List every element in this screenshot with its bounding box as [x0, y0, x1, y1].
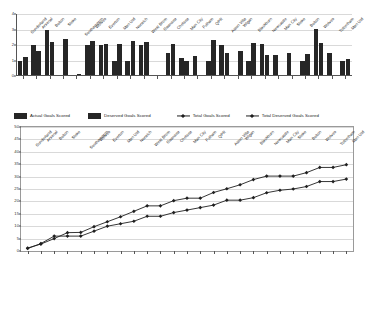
x-axis-tick-mark: [67, 251, 68, 254]
line-data-point: [92, 229, 96, 233]
line-data-point: [212, 191, 216, 195]
x-axis-tick-mark: [103, 76, 104, 79]
x-axis-tick-mark: [63, 76, 64, 79]
legend-item-label: Actual Goals Scored: [30, 114, 70, 118]
bar-deserved: [90, 41, 95, 76]
legend-line-marker-icon: [177, 113, 190, 119]
bar-deserved: [265, 55, 270, 76]
x-axis-tick-mark: [332, 76, 333, 79]
bar-actual: [193, 56, 198, 76]
line-data-point: [159, 214, 163, 218]
legend-bar-swatch-icon: [14, 113, 27, 119]
line-data-point: [291, 174, 295, 178]
x-axis-tick-mark: [187, 251, 188, 254]
x-axis-tick-mark: [147, 251, 148, 254]
bar-deserved: [238, 51, 243, 76]
line-data-point: [318, 180, 322, 184]
bar-plot-area: 01234 SunderlandArsenalBoltonStokeSoutha…: [16, 14, 352, 76]
line-chart: 05101520253035404550 SunderlandArsenalBo…: [0, 124, 360, 309]
x-axis-tick-mark: [214, 251, 215, 254]
bar-deserved: [171, 44, 176, 76]
line-data-point: [132, 209, 136, 213]
bar-actual: [99, 45, 104, 76]
x-axis-tick-mark: [171, 76, 172, 79]
bar-actual: [112, 61, 117, 77]
x-axis-tick-mark: [307, 251, 308, 254]
legend-item: Total Deserved Goals Scored: [246, 113, 319, 119]
x-axis-tick-mark: [320, 251, 321, 254]
x-axis-tick-mark: [197, 76, 198, 79]
x-axis-tick-mark: [211, 76, 212, 79]
line-data-point: [145, 204, 149, 208]
x-axis-tick-mark: [54, 251, 55, 254]
x-axis-tick-mark: [174, 251, 175, 254]
x-axis-tick-mark: [238, 76, 239, 79]
x-axis-tick-mark: [345, 76, 346, 79]
line-data-point: [79, 231, 83, 235]
bar-deserved: [63, 39, 68, 76]
line-data-point: [331, 180, 335, 184]
line-data-point: [198, 196, 202, 200]
x-axis-tick-mark: [50, 76, 51, 79]
x-axis-tick-mark: [76, 76, 77, 79]
x-axis-tick-mark: [81, 251, 82, 254]
line-data-point: [331, 166, 335, 170]
x-axis-tick-mark: [224, 76, 225, 79]
line-data-point: [265, 191, 269, 195]
bar-deserved: [36, 51, 41, 76]
line-data-point: [291, 187, 295, 191]
bar-deserved: [104, 44, 109, 76]
line-data-point: [345, 177, 349, 181]
line-data-point: [132, 219, 136, 223]
line-data-point: [66, 231, 70, 235]
line-data-point: [185, 208, 189, 212]
bar-deserved: [144, 42, 149, 76]
legend-item-label: Total Deserved Goals Scored: [262, 114, 319, 118]
bar-actual: [219, 45, 224, 76]
x-axis-tick-mark: [318, 76, 319, 79]
line-data-point: [225, 187, 229, 191]
x-axis-tick-mark: [36, 76, 37, 79]
bar-chart: 01234 SunderlandArsenalBoltonStokeSoutha…: [0, 0, 360, 108]
line-series-group: [21, 127, 353, 251]
line-series-path: [28, 179, 347, 248]
line-data-point: [265, 174, 269, 178]
bar-actual: [273, 55, 278, 76]
legend-item-label: Deserved Goals Scored: [104, 114, 151, 118]
bar-actual: [287, 53, 292, 76]
x-axis-tick-mark: [117, 76, 118, 79]
line-data-point: [252, 196, 256, 200]
bar-actual: [314, 29, 319, 76]
line-data-point: [305, 185, 309, 189]
bar-actual: [300, 61, 305, 77]
x-axis-tick-mark: [251, 76, 252, 79]
line-data-point: [318, 166, 322, 170]
bar-actual: [166, 53, 171, 76]
legend-item: Actual Goals Scored: [14, 113, 70, 119]
x-axis-tick-mark: [184, 76, 185, 79]
x-axis-tick-mark: [144, 76, 145, 79]
bar-x-axis-line: [16, 75, 352, 76]
x-axis-tick-mark: [23, 76, 24, 79]
bar-deserved: [50, 42, 55, 76]
x-axis-tick-mark: [278, 76, 279, 79]
line-data-point: [66, 234, 70, 238]
line-data-point: [119, 215, 123, 219]
line-series-path: [28, 165, 347, 248]
bar-deserved: [23, 57, 28, 76]
line-data-point: [278, 174, 282, 178]
x-axis-tick-mark: [130, 76, 131, 79]
bar-actual: [31, 45, 36, 76]
bar-actual: [246, 61, 251, 77]
bar-deserved: [184, 61, 189, 77]
x-axis-tick-mark: [28, 251, 29, 254]
x-axis-tick-mark: [94, 251, 95, 254]
x-axis-tick-mark: [305, 76, 306, 79]
bar-actual: [206, 61, 211, 77]
legend-item: Deserved Goals Scored: [88, 113, 151, 119]
bar-actual: [125, 61, 130, 77]
bar-actual: [139, 45, 144, 76]
x-axis-tick-mark: [293, 251, 294, 254]
line-data-point: [105, 224, 109, 228]
